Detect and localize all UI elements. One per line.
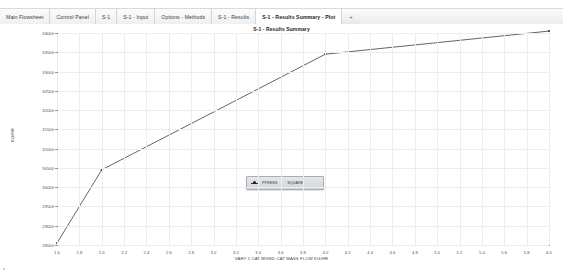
x-axis-tick-label: 3.2 <box>233 250 239 255</box>
chart-title: S-1 - Results Summary <box>0 26 563 32</box>
y-gridline <box>57 33 549 34</box>
x-gridline <box>348 33 349 245</box>
x-axis-tick-label: 3.6 <box>278 250 284 255</box>
x-gridline <box>146 33 147 245</box>
x-gridline <box>482 33 483 245</box>
y-axis-tick-label: 34000 <box>42 31 54 36</box>
y-gridline <box>57 129 549 130</box>
chart-container: S-1 - Results Summary KG/HR VARY 1 CAT M… <box>0 24 563 273</box>
y-axis-tick <box>55 52 58 53</box>
x-gridline <box>169 33 170 245</box>
y-gridline <box>57 110 549 111</box>
x-axis-tick-label: 5.2 <box>457 250 463 255</box>
y-axis-tick-label: 31500 <box>42 127 54 132</box>
x-axis-tick-label: 4.4 <box>367 250 373 255</box>
y-gridline <box>57 168 549 169</box>
y-axis-tick <box>55 33 58 34</box>
x-axis-tick-label: 5.4 <box>479 250 485 255</box>
x-gridline <box>460 33 461 245</box>
tab-s1-input[interactable]: S-1 - Input <box>117 9 155 25</box>
y-axis-tick-label: 29500 <box>42 204 54 209</box>
x-axis-tick-label: 4.2 <box>345 250 351 255</box>
tab-label: S-1 <box>102 14 110 20</box>
y-axis-tick <box>55 72 58 73</box>
y-gridline <box>57 245 549 246</box>
x-axis-tick-label: 4.6 <box>390 250 396 255</box>
x-axis-tick-label: 2.6 <box>166 250 172 255</box>
plot-area[interactable]: PPRESS SQUARE <box>57 33 549 245</box>
x-gridline <box>527 33 528 245</box>
x-axis-tick-label: 1.6 <box>54 250 60 255</box>
x-axis-tick-label: 3.8 <box>300 250 306 255</box>
y-gridline <box>57 226 549 227</box>
x-axis-tick-label: 2.0 <box>99 250 105 255</box>
tab-options-methods[interactable]: Options - Methods <box>155 9 212 25</box>
x-gridline <box>392 33 393 245</box>
legend-series-label: PPRESS <box>262 181 277 185</box>
tab-control-panel[interactable]: Control Panel <box>50 9 95 25</box>
y-gridline <box>57 149 549 150</box>
y-axis-tick <box>55 149 58 150</box>
y-gridline <box>57 52 549 53</box>
x-axis-tick-label: 3.0 <box>211 250 217 255</box>
x-gridline <box>236 33 237 245</box>
tab-s1-results[interactable]: S-1 - Results <box>212 9 256 25</box>
x-axis-tick-label: 6.0 <box>546 250 552 255</box>
x-gridline <box>57 33 58 245</box>
x-axis-tick-label: 2.8 <box>188 250 194 255</box>
y-axis-tick-label: 31000 <box>42 146 54 151</box>
line-marker-icon <box>251 181 258 185</box>
y-axis-tick <box>55 226 58 227</box>
x-gridline <box>549 33 550 245</box>
x-gridline <box>303 33 304 245</box>
y-gridline <box>57 72 549 73</box>
y-axis-tick <box>55 168 58 169</box>
x-axis-tick-label: 1.8 <box>76 250 82 255</box>
y-axis-tick-label: 32500 <box>42 88 54 93</box>
y-axis-tick <box>55 129 58 130</box>
add-tab-button[interactable]: + <box>342 9 360 25</box>
resize-handle[interactable] <box>3 268 5 270</box>
x-axis-tick-label: 2.2 <box>121 250 127 255</box>
x-gridline <box>325 33 326 245</box>
y-axis-title: KG/HR <box>10 128 15 142</box>
y-gridline <box>57 91 549 92</box>
y-axis-tick-label: 30500 <box>42 165 54 170</box>
tab-main-flowsheet[interactable]: Main Flowsheet <box>0 9 50 25</box>
y-axis-tick-label: 33500 <box>42 50 54 55</box>
y-gridline <box>57 206 549 207</box>
tab-label: S-1 - Input <box>123 14 148 20</box>
x-axis-tick-label: 4.0 <box>322 250 328 255</box>
y-axis-tick-label: 28500 <box>42 243 54 248</box>
y-axis-tick <box>55 206 58 207</box>
x-axis-tick-label: 2.4 <box>144 250 150 255</box>
x-gridline <box>504 33 505 245</box>
x-gridline <box>437 33 438 245</box>
y-axis-tick <box>55 91 58 92</box>
aspen-plot-window: Main Flowsheet Control Panel S-1 S-1 - I… <box>0 0 563 273</box>
x-gridline <box>191 33 192 245</box>
legend-value-label: SQUARE <box>287 181 303 185</box>
tab-label: Main Flowsheet <box>6 14 43 20</box>
y-axis-tick <box>55 187 58 188</box>
tab-s1-results-summary-plot[interactable]: S-1 - Results Summary - Plot <box>256 9 342 25</box>
x-axis-tick-label: 5.6 <box>501 250 507 255</box>
y-axis-tick <box>55 110 58 111</box>
x-axis-tick-label: 4.8 <box>412 250 418 255</box>
x-gridline <box>415 33 416 245</box>
x-gridline <box>214 33 215 245</box>
y-axis-tick <box>55 245 58 246</box>
x-axis-title: VARY 1 CAT MIXED CAT MASS FLOW KG/HR <box>0 256 563 261</box>
tab-label: S-1 - Results Summary - Plot <box>262 14 335 20</box>
x-gridline <box>370 33 371 245</box>
x-gridline <box>124 33 125 245</box>
y-axis-tick-label: 29000 <box>42 223 54 228</box>
tab-label: S-1 - Results <box>218 14 249 20</box>
y-axis-tick-label: 32000 <box>42 108 54 113</box>
x-axis-tick-label: 3.4 <box>255 250 261 255</box>
x-gridline <box>258 33 259 245</box>
y-axis-tick-label: 30000 <box>42 185 54 190</box>
tab-strip-filler <box>360 9 563 25</box>
x-gridline <box>79 33 80 245</box>
tab-s1[interactable]: S-1 <box>96 9 117 25</box>
